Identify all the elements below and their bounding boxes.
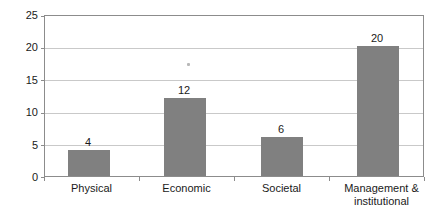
bar-value-label-management-institutional: 20 [356,33,398,44]
x-tick-mark [424,177,425,181]
y-axis-tick-label: 10 [4,107,38,118]
x-tick-mark [329,177,330,181]
x-axis-category-label-line1: Management & [329,182,434,195]
x-tick-mark [44,177,45,181]
y-tick-mark [41,16,45,17]
x-axis-category-label-societal: Societal [234,182,329,195]
x-axis-category-label-line1: Societal [234,182,329,195]
bar-economic[interactable] [164,98,206,176]
bar-chart: 25 20 15 10 5 0 4 12 6 20 Physical [0,0,441,224]
bar-societal[interactable] [261,137,303,176]
x-axis-category-label-management-institutional: Management & institutional [329,182,434,208]
bar-management-institutional[interactable] [357,46,399,176]
bar-value-label-economic: 12 [163,85,205,96]
x-axis-category-label-line2: institutional [329,195,434,208]
x-axis-category-label-economic: Economic [139,182,234,195]
x-axis-category-label-physical: Physical [44,182,139,195]
y-axis-tick-label: 20 [4,42,38,53]
y-axis-tick-label: 25 [4,10,38,21]
x-axis-category-label-line1: Physical [44,182,139,195]
bar-physical[interactable] [68,150,110,176]
y-tick-mark [41,113,45,114]
bar-value-label-physical: 4 [67,137,109,148]
y-tick-mark [41,80,45,81]
bar-value-label-societal: 6 [260,124,302,135]
x-tick-mark [139,177,140,181]
x-axis-category-label-line1: Economic [139,182,234,195]
y-axis-tick-label: 5 [4,140,38,151]
y-axis-tick-label: 0 [4,172,38,183]
y-tick-mark [41,48,45,49]
y-tick-mark [41,145,45,146]
x-tick-mark [234,177,235,181]
scan-artifact-speck [187,63,190,66]
y-axis-tick-label: 15 [4,75,38,86]
